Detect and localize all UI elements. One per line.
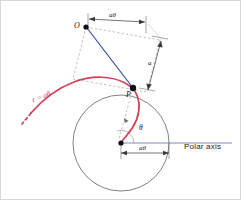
- dimension-bottom-label: aθ: [139, 145, 146, 152]
- dimension-top-label: aθ: [109, 12, 116, 19]
- dimension-right-label: a: [148, 60, 152, 67]
- polar-axis-label: Polar axis: [184, 143, 221, 151]
- point-o-label: O: [74, 22, 80, 30]
- theta-label: θ: [139, 124, 143, 132]
- point-o-dot: [83, 24, 88, 29]
- point-center-dot: [118, 140, 123, 145]
- polar-spiral-figure: O P aθ a aθ θ r = aθ Polar axis: [0, 0, 241, 200]
- point-p-label: P: [126, 91, 131, 99]
